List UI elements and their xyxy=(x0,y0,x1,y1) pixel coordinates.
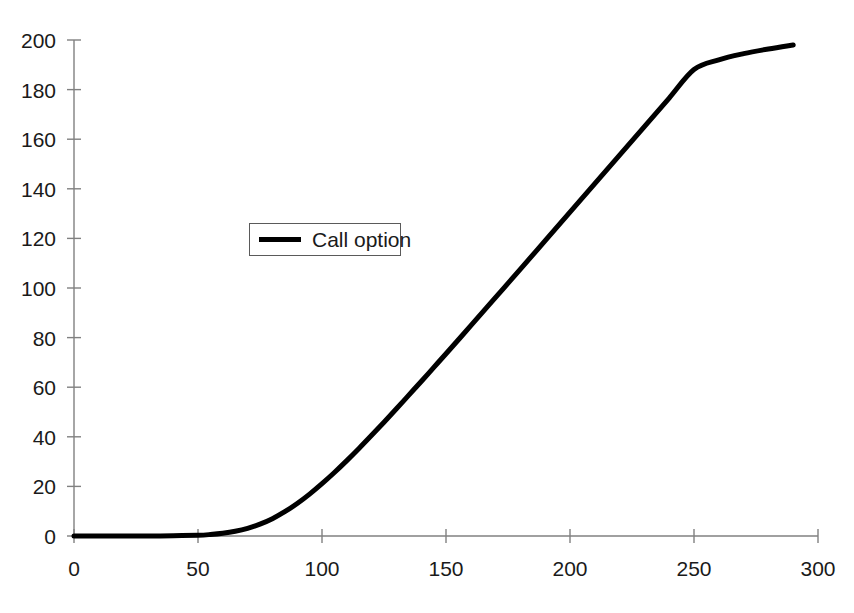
y-axis-tick-label: 140 xyxy=(0,178,56,199)
y-axis-tick-label: 20 xyxy=(0,476,56,497)
x-axis-tick-label: 0 xyxy=(68,558,80,579)
x-axis-tick-label: 150 xyxy=(428,558,463,579)
legend-label-call-option: Call option xyxy=(312,229,411,250)
y-axis-tick-label: 0 xyxy=(0,526,56,547)
chart-plot-area xyxy=(0,0,854,613)
y-axis-tick-label: 180 xyxy=(0,79,56,100)
y-axis-tick-label: 60 xyxy=(0,377,56,398)
x-axis-tick-label: 100 xyxy=(304,558,339,579)
x-axis-tick-label: 250 xyxy=(676,558,711,579)
x-axis-tick-label: 300 xyxy=(800,558,835,579)
series-line-call-option xyxy=(74,45,793,536)
y-axis-tick-label: 80 xyxy=(0,327,56,348)
x-axis-tick-label: 50 xyxy=(186,558,209,579)
y-axis-tick-label: 100 xyxy=(0,278,56,299)
x-axis-tick-label: 200 xyxy=(552,558,587,579)
y-axis-tick-label: 160 xyxy=(0,129,56,150)
y-axis-tick-label: 40 xyxy=(0,426,56,447)
legend-line-swatch xyxy=(259,237,301,242)
series-group xyxy=(74,45,793,536)
chart-container: 020406080100120140160180200 050100150200… xyxy=(0,0,854,613)
y-axis-tick-label: 200 xyxy=(0,30,56,51)
chart-legend: Call option xyxy=(249,223,401,256)
axes-group xyxy=(67,40,818,543)
y-axis-tick-label: 120 xyxy=(0,228,56,249)
